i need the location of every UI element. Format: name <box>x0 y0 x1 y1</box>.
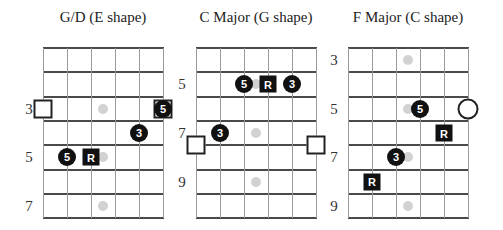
string-line <box>292 48 293 218</box>
fret-line <box>348 169 469 171</box>
string-line <box>316 48 317 218</box>
fret-line <box>348 47 469 49</box>
fret-inlay-dot <box>403 201 413 211</box>
open-square-marker <box>307 136 326 155</box>
chart-title: G/D (E shape) <box>60 9 147 26</box>
string-line <box>91 48 92 218</box>
fret-line <box>43 193 164 195</box>
fret-line <box>348 217 469 219</box>
root-note-marker: R <box>260 76 277 93</box>
root-note-marker: R <box>364 173 381 190</box>
string-line <box>268 48 269 218</box>
fret-line <box>43 169 164 171</box>
fret-line <box>43 71 164 73</box>
fret-number: 5 <box>178 76 186 93</box>
fret-number: 3 <box>25 100 33 117</box>
fret-number: 9 <box>330 197 338 214</box>
fret-line <box>348 193 469 195</box>
fret-inlay-dot <box>251 177 261 187</box>
interval-note-marker: 3 <box>283 75 301 93</box>
interval-note-marker: 5 <box>235 75 253 93</box>
fret-line <box>43 217 164 219</box>
fret-line <box>196 120 317 122</box>
fret-line <box>196 96 317 98</box>
fret-line <box>43 47 164 49</box>
fret-number: 9 <box>178 173 186 190</box>
interval-note-marker: 5 <box>411 100 429 118</box>
open-square-marker <box>34 99 53 118</box>
fret-number: 7 <box>330 149 338 166</box>
interval-note-marker: 3 <box>211 124 229 142</box>
fret-line <box>196 47 317 49</box>
string-line <box>67 48 68 218</box>
fret-inlay-dot <box>98 104 108 114</box>
fret-line <box>348 120 469 122</box>
interval-note-marker: 5 <box>154 100 172 118</box>
chart-title: F Major (C shape) <box>353 9 463 26</box>
fret-inlay-dot <box>98 152 108 162</box>
fret-line <box>348 71 469 73</box>
fret-line <box>196 144 317 146</box>
fret-inlay-dot <box>98 201 108 211</box>
fret-line <box>348 96 469 98</box>
string-line <box>163 48 164 218</box>
fret-line <box>196 71 317 73</box>
fret-line <box>196 169 317 171</box>
interval-note-marker: 3 <box>387 148 405 166</box>
string-line <box>244 48 245 218</box>
chart-title: C Major (G shape) <box>200 9 313 26</box>
fret-line <box>196 193 317 195</box>
fret-number: 7 <box>25 197 33 214</box>
fret-line <box>43 120 164 122</box>
string-line <box>468 48 469 218</box>
fret-inlay-dot <box>251 128 261 138</box>
fret-number: 5 <box>25 149 33 166</box>
root-note-marker: R <box>436 125 453 142</box>
fret-number: 5 <box>330 100 338 117</box>
fret-line <box>196 217 317 219</box>
open-square-marker <box>187 136 206 155</box>
fret-line <box>43 144 164 146</box>
fret-number: 3 <box>330 52 338 69</box>
fret-line <box>43 96 164 98</box>
fret-number: 7 <box>178 125 186 142</box>
fret-line <box>348 144 469 146</box>
string-line <box>420 48 421 218</box>
string-line <box>196 48 197 218</box>
string-line <box>115 48 116 218</box>
interval-note-marker: 5 <box>58 148 76 166</box>
string-line <box>348 48 349 218</box>
interval-note-marker: 3 <box>130 124 148 142</box>
open-circle-marker <box>458 98 479 119</box>
string-line <box>43 48 44 218</box>
string-line <box>372 48 373 218</box>
root-note-marker: R <box>83 149 100 166</box>
chord-diagrams: G/D (E shape)357535R C Major (G shape)57… <box>0 0 503 230</box>
string-line <box>396 48 397 218</box>
fret-inlay-dot <box>403 55 413 65</box>
